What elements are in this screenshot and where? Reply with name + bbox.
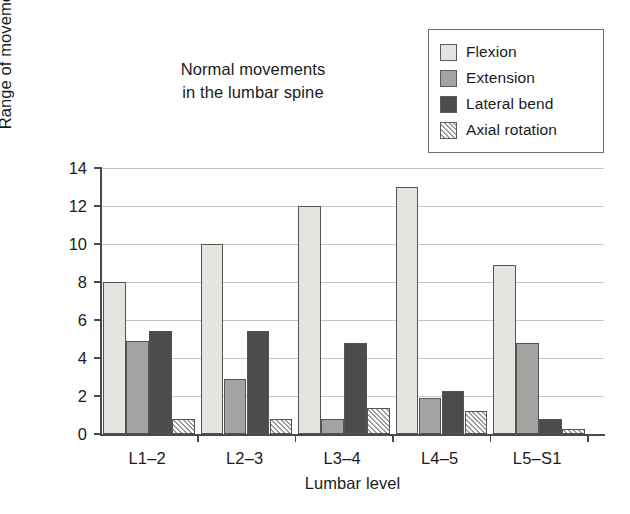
x-category-label: L3–4 — [287, 449, 397, 468]
x-axis-line — [100, 434, 605, 436]
y-tick-mark — [94, 205, 100, 207]
x-axis-title: Lumbar level — [101, 474, 604, 493]
y-tick-label: 14 — [57, 159, 87, 178]
legend-label-extension: Extension — [466, 69, 535, 87]
bar-flexion-l5s1[interactable] — [493, 265, 516, 434]
legend-swatch-lateral-bend-icon — [440, 96, 457, 113]
y-tick-mark — [94, 281, 100, 283]
legend-label-lateral-bend: Lateral bend — [466, 95, 553, 113]
legend-item-lateral-bend[interactable]: Lateral bend — [440, 91, 593, 117]
bar-axial-rotation-l5s1[interactable] — [562, 429, 585, 434]
y-tick-mark — [94, 319, 100, 321]
x-tick-mark — [295, 435, 297, 442]
y-tick-label: 6 — [57, 311, 87, 330]
bar-lateral-bend-l34[interactable] — [344, 343, 367, 434]
y-tick-mark — [94, 243, 100, 245]
legend-label-axial-rotation: Axial rotation — [466, 121, 557, 139]
legend-label-flexion: Flexion — [466, 43, 517, 61]
bar-axial-rotation-l23[interactable] — [270, 419, 293, 434]
y-tick-label: 10 — [57, 235, 87, 254]
x-tick-mark — [392, 435, 394, 442]
x-category-label: L2–3 — [190, 449, 300, 468]
bar-lateral-bend-l23[interactable] — [247, 331, 270, 434]
bar-flexion-l45[interactable] — [396, 187, 419, 434]
bar-lateral-bend-l5s1[interactable] — [539, 419, 562, 434]
bar-extension-l5s1[interactable] — [516, 343, 539, 434]
bar-extension-l34[interactable] — [321, 419, 344, 434]
chart-title: Normal movements in the lumbar spine — [118, 58, 388, 104]
bar-lateral-bend-l45[interactable] — [442, 391, 465, 434]
y-tick-label: 8 — [57, 273, 87, 292]
y-tick-label: 2 — [57, 387, 87, 406]
y-axis-title: Range of movement (degrees) — [0, 0, 15, 156]
y-tick-mark — [94, 433, 100, 435]
bar-flexion-l12[interactable] — [103, 282, 126, 434]
y-tick-label: 12 — [57, 197, 87, 216]
bar-flexion-l34[interactable] — [298, 206, 321, 434]
legend-item-flexion[interactable]: Flexion — [440, 39, 593, 65]
x-category-label: L5–S1 — [482, 449, 592, 468]
plot-area: 02468101214 L1–2L2–3L3–4L4–5L5–S1 — [101, 168, 604, 434]
chart-legend: Flexion Extension Lateral bend Axial rot… — [428, 29, 604, 153]
bar-axial-rotation-l12[interactable] — [172, 419, 195, 434]
x-tick-mark — [587, 435, 589, 442]
bar-axial-rotation-l45[interactable] — [465, 411, 488, 434]
legend-swatch-axial-rotation-icon — [440, 122, 457, 139]
legend-swatch-extension-icon — [440, 70, 457, 87]
bar-extension-l45[interactable] — [419, 398, 442, 434]
y-tick-mark — [94, 167, 100, 169]
bar-axial-rotation-l34[interactable] — [367, 408, 390, 434]
x-tick-mark — [197, 435, 199, 442]
x-category-label: L1–2 — [92, 449, 202, 468]
y-tick-label: 0 — [57, 425, 87, 444]
legend-item-extension[interactable]: Extension — [440, 65, 593, 91]
bar-flexion-l23[interactable] — [201, 244, 224, 434]
chart-figure: Normal movements in the lumbar spine Fle… — [0, 0, 630, 514]
y-tick-mark — [94, 357, 100, 359]
x-category-label: L4–5 — [385, 449, 495, 468]
bar-extension-l23[interactable] — [224, 379, 247, 434]
y-tick-label: 4 — [57, 349, 87, 368]
legend-item-axial-rotation[interactable]: Axial rotation — [440, 117, 593, 143]
x-tick-mark — [490, 435, 492, 442]
bar-series-group — [101, 168, 604, 434]
y-tick-mark — [94, 395, 100, 397]
bar-extension-l12[interactable] — [126, 341, 149, 434]
bar-lateral-bend-l12[interactable] — [149, 331, 172, 434]
legend-swatch-flexion-icon — [440, 44, 457, 61]
